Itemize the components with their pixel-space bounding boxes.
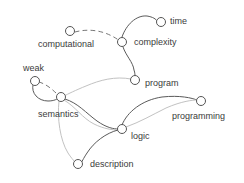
edge-complexity-program [123,47,135,76]
node-weak[interactable] [31,77,40,86]
node-computational[interactable] [66,27,75,36]
node-label-weak: weak [22,63,45,73]
edge-weak-semantics-solid [33,85,58,101]
node-program[interactable] [131,76,140,85]
node-label-time: time [170,16,187,26]
graph-diagram: computationaltimecomplexityprogramweakse… [0,0,244,183]
node-label-logic: logic [131,131,150,141]
node-logic[interactable] [118,125,127,134]
node-label-programming: programming [172,111,225,121]
edge-weak-semantics-dashed [39,82,57,94]
edge-logic-description [81,130,118,163]
node-time[interactable] [157,18,166,27]
node-label-semantics: semantics [38,109,79,119]
edge-computational-complexity [75,30,117,39]
node-programming[interactable] [197,97,206,106]
edge-program-semantics [64,78,131,96]
node-description[interactable] [74,160,83,169]
node-label-description: description [90,159,134,169]
node-semantics[interactable] [57,93,66,102]
node-label-complexity: complexity [134,37,177,47]
node-label-program: program [145,78,179,88]
node-complexity[interactable] [118,38,127,47]
node-label-computational: computational [38,39,94,49]
edge-complexity-time [122,16,157,37]
